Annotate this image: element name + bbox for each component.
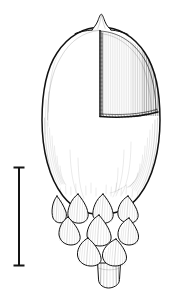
illustration-plate [0,0,177,293]
cupule-scale-row-2 [59,215,139,246]
botanical-figure-svg [0,0,177,293]
nut-body-outline [42,27,160,215]
